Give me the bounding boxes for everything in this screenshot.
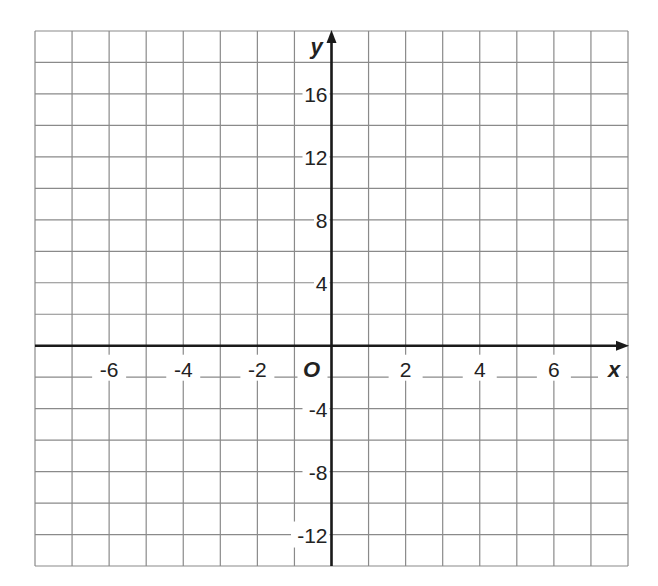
y-tick-label: 12: [304, 146, 327, 169]
coordinate-plane: -6-4-2246161284-4-8-12Oxy: [0, 0, 658, 586]
x-tick-label: -2: [248, 358, 267, 381]
label-backgrounds: [92, 34, 626, 548]
y-tick-label: -12: [297, 524, 327, 547]
y-axis-arrow-icon: [327, 30, 337, 43]
x-tick-label: 2: [400, 358, 412, 381]
x-axis-label: x: [607, 357, 621, 382]
y-tick-label: 4: [316, 272, 328, 295]
x-tick-label: 6: [548, 358, 560, 381]
x-tick-label: -4: [174, 358, 193, 381]
x-axis-arrow-icon: [616, 341, 629, 351]
y-tick-label: 8: [316, 209, 328, 232]
origin-label: O: [303, 357, 320, 382]
axes: [35, 30, 629, 566]
y-axis-label: y: [309, 34, 324, 59]
y-tick-label: -8: [309, 461, 328, 484]
x-tick-label: 4: [474, 358, 486, 381]
y-tick-label: 16: [304, 83, 327, 106]
tick-labels: -6-4-2246161284-4-8-12Oxy: [100, 34, 621, 547]
y-tick-label: -4: [309, 398, 328, 421]
x-tick-label: -6: [100, 358, 119, 381]
